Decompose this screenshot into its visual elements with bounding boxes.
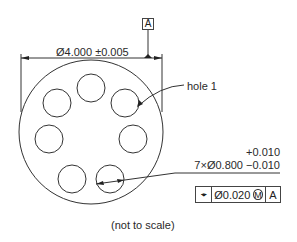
fcf-datum-cell: A	[266, 187, 280, 202]
overall-diameter-dimension: Ø4.000 ±0.005	[56, 46, 129, 58]
hole	[43, 89, 71, 117]
hole	[119, 125, 147, 153]
fcf-symbol-cell: ⌖	[196, 187, 212, 202]
drawing-canvas	[0, 0, 297, 242]
hole	[35, 125, 63, 153]
outer-circle	[19, 60, 163, 204]
hole	[58, 165, 86, 193]
hole	[96, 165, 124, 193]
mmc-modifier-icon: M	[253, 189, 263, 200]
hole-1-arrow	[137, 100, 143, 107]
fcf-datum: A	[269, 189, 276, 201]
datum-a-box: A	[142, 18, 154, 30]
hole-1-leader	[138, 85, 184, 106]
hole-1-callout: hole 1	[187, 80, 217, 92]
hole-dim-arrow-right	[117, 179, 124, 183]
hole-dimension: 7×Ø0.800 −0.010	[194, 159, 280, 171]
position-icon: ⌖	[201, 189, 207, 201]
datum-triangle	[144, 54, 152, 58]
hole	[111, 89, 139, 117]
not-to-scale-note: (not to scale)	[111, 219, 175, 231]
feature-control-frame: ⌖ Ø0.020 M A	[195, 186, 281, 203]
fcf-tolerance-cell: Ø0.020 M	[212, 187, 266, 202]
fcf-tolerance: Ø0.020	[214, 189, 250, 201]
hole-tolerance-upper: +0.010	[246, 146, 280, 158]
dim-arrow-right	[154, 56, 162, 60]
hole	[77, 74, 105, 102]
dim-arrow-left	[21, 56, 29, 60]
hole-dim-leader	[96, 173, 175, 184]
datum-a-label: A	[145, 18, 152, 29]
